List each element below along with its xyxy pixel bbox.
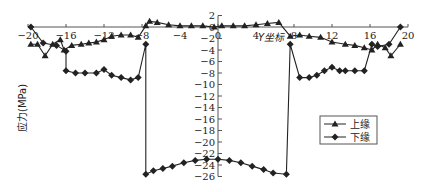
axes: −20−16−12−8−404812162020−2−4−6−8−10−12−1… bbox=[17, 10, 414, 182]
y-tick-label: −6 bbox=[200, 56, 215, 67]
diamond-marker-icon bbox=[313, 72, 320, 79]
diamond-marker-icon bbox=[142, 41, 149, 48]
diamond-marker-icon bbox=[283, 171, 290, 178]
y-tick-label: −26 bbox=[194, 171, 215, 182]
diamond-marker-icon bbox=[270, 170, 277, 177]
diamond-marker-icon bbox=[249, 163, 256, 170]
triangle-marker-icon bbox=[146, 18, 153, 24]
y-tick-label: −22 bbox=[194, 148, 215, 159]
triangle-marker-icon bbox=[296, 32, 303, 38]
y-tick-label: −14 bbox=[194, 102, 215, 113]
diamond-marker-icon bbox=[180, 159, 187, 166]
diamond-marker-icon bbox=[342, 67, 349, 74]
y-axis-title: 应力(MPa) bbox=[16, 84, 28, 132]
diamond-marker-icon bbox=[306, 74, 313, 81]
y-tick-label: −4 bbox=[200, 45, 215, 56]
legend-label-upper: 上缘 bbox=[350, 118, 370, 130]
triangle-marker-icon bbox=[397, 41, 404, 47]
x-tick-label: −20 bbox=[17, 30, 38, 41]
diamond-marker-icon bbox=[361, 67, 368, 74]
diamond-marker-icon bbox=[351, 67, 358, 74]
diamond-marker-icon bbox=[321, 67, 328, 74]
diamond-marker-icon bbox=[82, 70, 89, 77]
x-tick-label: −4 bbox=[173, 30, 188, 41]
stress-line-chart: −20−16−12−8−404812162020−2−4−6−8−10−12−1… bbox=[0, 0, 424, 192]
y-tick-label: −10 bbox=[194, 79, 215, 90]
x-tick-label: 20 bbox=[402, 30, 415, 41]
legend-label-lower: 下缘 bbox=[350, 131, 370, 143]
diamond-marker-icon bbox=[127, 76, 134, 83]
diamond-marker-icon bbox=[63, 67, 70, 74]
y-tick-label: 2 bbox=[209, 10, 215, 21]
y-tick-label: −8 bbox=[200, 68, 215, 79]
diamond-marker-icon bbox=[93, 70, 100, 77]
lower-edge-line bbox=[31, 27, 401, 174]
x-tick-label: 16 bbox=[364, 30, 377, 41]
diamond-marker-icon bbox=[329, 64, 336, 71]
y-tick-label: −16 bbox=[194, 114, 215, 125]
triangle-marker-icon bbox=[275, 19, 282, 25]
diamond-marker-icon bbox=[118, 74, 125, 81]
diamond-marker-icon bbox=[260, 166, 267, 173]
diamond-marker-icon bbox=[237, 159, 244, 166]
y-tick-label: −20 bbox=[194, 137, 215, 148]
diamond-marker-icon bbox=[226, 157, 233, 164]
diamond-marker-icon bbox=[287, 41, 294, 48]
y-tick-label: −18 bbox=[194, 125, 215, 136]
diamond-marker-icon bbox=[215, 156, 222, 163]
diamond-marker-icon bbox=[142, 171, 149, 178]
diamond-marker-icon bbox=[169, 163, 176, 170]
legend: 上缘 下缘 bbox=[320, 116, 377, 144]
triangle-marker-icon bbox=[42, 52, 49, 58]
x-tick-label: 0 bbox=[215, 30, 221, 41]
series-group bbox=[27, 18, 404, 178]
x-axis-title: Y坐标 bbox=[258, 32, 285, 43]
diamond-marker-icon bbox=[296, 74, 303, 81]
diamond-marker-icon bbox=[159, 165, 166, 172]
y-tick-label: −12 bbox=[194, 91, 215, 102]
diamond-marker-icon bbox=[135, 74, 142, 81]
diamond-marker-icon bbox=[150, 167, 157, 174]
diamond-marker-icon bbox=[72, 70, 79, 77]
y-tick-label: −2 bbox=[200, 33, 215, 44]
